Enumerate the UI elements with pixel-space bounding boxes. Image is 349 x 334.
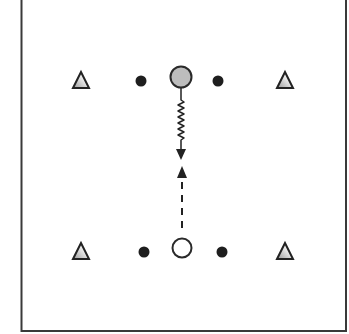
diagram-canvas [0,0,349,334]
player-with-ball-icon [171,67,192,88]
cone-icon [277,72,293,88]
dribble-path [178,88,184,150]
cone-icon [277,243,293,259]
defender-dot-icon [139,247,150,258]
defender-dot-icon [213,76,224,87]
arrow-up-icon [177,166,187,178]
cone-icon [73,243,89,259]
drill-diagram [0,0,349,334]
cone-icon [73,72,89,88]
defender-dot-icon [217,247,228,258]
arrow-down-icon [176,149,186,160]
defender-dot-icon [136,76,147,87]
player-icon [173,239,192,258]
field-border [22,0,347,331]
